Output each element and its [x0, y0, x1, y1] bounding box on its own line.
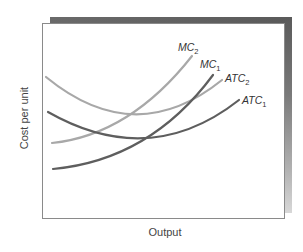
label-atc2: ATC2	[225, 72, 249, 87]
label-atc1: ATC1	[242, 94, 266, 109]
label-mc1-main: MC	[200, 58, 216, 70]
label-mc1-sub: 1	[216, 64, 220, 73]
curve-mc1	[53, 75, 213, 169]
label-mc1: MC1	[200, 58, 221, 73]
cost-curves-plot	[0, 0, 303, 252]
y-axis-label: Cost per unit	[18, 87, 30, 149]
x-axis-label: Output	[148, 226, 181, 238]
label-mc2: MC2	[178, 41, 199, 56]
curve-mc2	[52, 56, 192, 143]
label-mc2-main: MC	[178, 41, 194, 53]
label-mc2-sub: 2	[194, 47, 198, 56]
label-atc2-main: ATC	[225, 72, 245, 84]
label-atc1-sub: 1	[262, 100, 266, 109]
label-atc1-main: ATC	[242, 94, 262, 106]
label-atc2-sub: 2	[245, 78, 249, 87]
